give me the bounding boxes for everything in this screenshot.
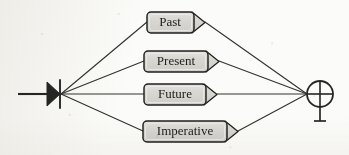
edges-layer [61,22,307,131]
edge-start-to-present [61,61,144,94]
transition-network-diagram: PastPresentFutureImperative [0,0,349,155]
edge-past-to-end [205,22,307,94]
edge-present-to-end [219,61,307,94]
node-label-past: Past [159,14,181,29]
scanned-diagram-figure: PastPresentFutureImperative [0,0,349,155]
node-label-future: Future [158,86,192,101]
node-future[interactable]: Future [144,84,217,105]
edge-start-to-past [61,22,147,94]
edge-start-to-imperative [61,94,143,131]
node-imperative[interactable]: Imperative [143,121,238,142]
edge-imperative-to-end [238,94,307,131]
node-past[interactable]: Past [147,12,205,33]
start-triangle-icon [47,82,60,106]
node-label-imperative: Imperative [157,123,214,138]
nodes-layer: PastPresentFutureImperative [143,12,238,142]
node-present[interactable]: Present [144,51,219,72]
node-label-present: Present [157,53,196,68]
